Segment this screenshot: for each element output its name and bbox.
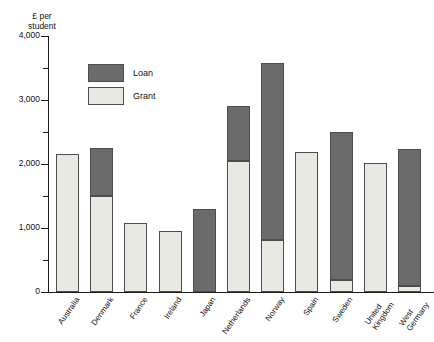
legend-swatch-grant-icon [88,87,124,105]
bar-united-kingdom [364,163,387,292]
y-axis-major-tick [41,228,48,229]
bar-segment-loan [227,106,250,160]
bar-segment-loan [90,148,113,196]
bar-segment-grant [261,240,284,292]
bar-australia [56,154,79,292]
y-axis-tick-labels: 01,0002,0003,0004,000 [0,0,40,342]
y-axis-tick-label: 0 [2,286,40,296]
y-axis-tick-label: 1,000 [2,222,40,232]
x-axis-label-text: Norway [264,296,287,323]
bar-segment-grant [364,163,387,292]
x-axis-label-text: Netherlands [221,296,253,336]
legend-label-grant: Grant [133,91,156,101]
bar-chart: £ per student 01,0002,0003,0004,000 Aust… [0,0,434,342]
bar-segment-grant [159,231,182,292]
bar-japan [193,209,216,292]
x-axis-label-text: Australia [57,296,82,327]
x-axis-line [48,292,434,293]
bar-netherlands [227,106,250,292]
bar-segment-grant [124,223,147,292]
y-axis-tick-label: 3,000 [2,94,40,104]
x-axis-label-text: France [129,296,150,321]
x-axis-label-text: United Kingdom [364,296,397,332]
bar-segment-grant [330,280,353,292]
bar-segment-loan [193,209,216,292]
x-axis-label-text: Ireland [163,296,184,321]
bar-segment-loan [398,149,421,286]
x-axis-label-text: Sweden [332,296,356,325]
bar-sweden [330,132,353,292]
bar-norway [261,63,284,292]
bar-france [124,223,147,292]
bar-segment-grant [227,161,250,292]
x-axis-label-text: Spain [302,296,321,318]
y-axis-tick-label: 4,000 [2,30,40,40]
bar-segment-grant [398,286,421,292]
bar-ireland [159,231,182,292]
bar-spain [295,152,318,292]
legend-label-loan: Loan [133,68,153,78]
legend-swatch-loan-icon [88,64,124,82]
y-axis-major-tick [41,100,48,101]
y-axis-tick-label: 2,000 [2,158,40,168]
bar-west-germany [398,149,421,292]
y-axis-major-tick [41,36,48,37]
bar-segment-grant [295,152,318,292]
bar-segment-loan [330,132,353,280]
y-axis-major-tick [41,292,48,293]
x-axis-label-text: West Germany [398,296,431,333]
bar-denmark [90,148,113,292]
x-axis-label-text: Japan [199,296,219,319]
bar-segment-grant [90,196,113,292]
bar-segment-grant [56,154,79,292]
bar-segment-loan [261,63,284,240]
x-axis-label-text: Denmark [90,296,116,328]
y-axis-major-tick [41,164,48,165]
